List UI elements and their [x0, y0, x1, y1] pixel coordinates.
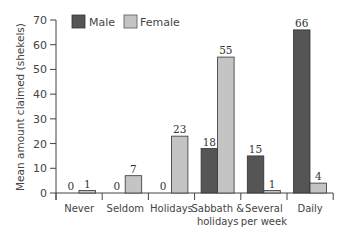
- bar-value-label: 4: [315, 170, 322, 182]
- y-axis-label: Mean amount claimed (shekels): [14, 23, 26, 191]
- bars: 01070231855151664: [67, 17, 326, 193]
- bar-value-label: 0: [114, 180, 121, 192]
- bar-value-label: 7: [130, 163, 137, 175]
- bar-chart: 010203040506070 NeverSeldomHolidaysSabba…: [0, 0, 352, 239]
- bar-value-label: 1: [84, 178, 91, 190]
- x-category-label: holidays: [197, 216, 239, 227]
- bar-value-label: 15: [249, 143, 262, 155]
- y-tick-label: 20: [33, 138, 47, 151]
- y-tick-label: 0: [40, 187, 47, 200]
- y-tick-label: 60: [33, 39, 47, 52]
- x-category-label: per week: [241, 216, 287, 227]
- x-category-label: Several: [245, 203, 283, 214]
- y-tick-label: 40: [33, 88, 47, 101]
- bar-female: [310, 183, 327, 193]
- legend-swatch-male: [72, 15, 85, 28]
- y-tick-label: 50: [33, 63, 47, 76]
- x-category-label: Never: [64, 203, 95, 214]
- bar-value-label: 18: [203, 136, 216, 148]
- x-category-label: Holidays: [150, 203, 193, 214]
- legend: Male Female: [72, 15, 180, 29]
- bar-value-label: 66: [295, 17, 309, 29]
- x-axis: NeverSeldomHolidaysSabbath &holidaysSeve…: [56, 193, 333, 227]
- bar-female: [79, 191, 96, 193]
- y-axis: 010203040506070: [33, 14, 56, 200]
- bar-female: [125, 176, 142, 193]
- legend-swatch-female: [124, 15, 137, 28]
- x-category-label: Daily: [297, 203, 322, 214]
- bar-female: [171, 136, 188, 193]
- y-tick-label: 10: [33, 162, 47, 175]
- bar-male: [201, 149, 218, 193]
- bar-female: [218, 57, 235, 193]
- bar-value-label: 0: [160, 180, 167, 192]
- bar-female: [264, 191, 281, 193]
- y-tick-label: 30: [33, 113, 47, 126]
- bar-value-label: 55: [219, 44, 232, 56]
- bar-male: [247, 156, 263, 193]
- bar-value-label: 23: [173, 123, 186, 135]
- bar-value-label: 1: [269, 178, 276, 190]
- x-category-label: Seldom: [107, 203, 145, 214]
- x-category-label: Sabbath &: [191, 203, 244, 214]
- bar-value-label: 0: [67, 180, 74, 192]
- y-tick-label: 70: [33, 14, 47, 27]
- legend-label-female: Female: [140, 16, 180, 29]
- legend-label-male: Male: [89, 16, 115, 29]
- bar-male: [294, 30, 311, 193]
